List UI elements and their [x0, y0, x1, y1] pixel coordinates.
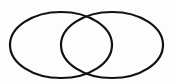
venn-diagram	[0, 0, 170, 84]
